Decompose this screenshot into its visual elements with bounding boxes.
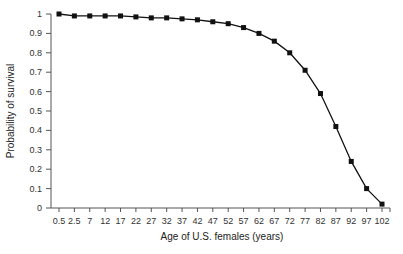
x-tick-label: 97: [362, 216, 372, 226]
y-tick-label: 1: [37, 9, 42, 19]
data-point-marker: [210, 19, 215, 24]
data-point-marker: [164, 15, 169, 20]
x-tick-label: 0.5: [53, 216, 66, 226]
x-axis: 0.52.57121722273237424752576267727782879…: [51, 208, 390, 226]
y-tick-label: 0.1: [29, 184, 42, 194]
x-tick-label: 22: [131, 216, 141, 226]
x-tick-label: 57: [239, 216, 249, 226]
data-point-marker: [226, 21, 231, 26]
x-tick-label: 12: [100, 216, 110, 226]
x-tick-label: 87: [331, 216, 341, 226]
y-tick-label: 0.3: [29, 145, 42, 155]
x-tick-label: 37: [177, 216, 187, 226]
x-tick-label: 27: [146, 216, 156, 226]
data-point-marker: [149, 15, 154, 20]
data-point-marker: [256, 31, 261, 36]
x-tick-label: 77: [300, 216, 310, 226]
x-tick-label: 52: [223, 216, 233, 226]
y-tick-label: 0.8: [29, 48, 42, 58]
x-tick-label: 42: [192, 216, 202, 226]
data-point-marker: [364, 186, 369, 191]
y-tick-label: 0.9: [29, 28, 42, 38]
data-point-marker: [180, 16, 185, 21]
data-point-marker: [287, 50, 292, 55]
data-point-marker: [318, 91, 323, 96]
data-point-marker: [133, 14, 138, 19]
data-point-marker: [241, 25, 246, 30]
data-point-marker: [103, 13, 108, 18]
x-tick-label: 92: [346, 216, 356, 226]
data-point-marker: [118, 13, 123, 18]
data-point-marker: [303, 68, 308, 73]
data-point-marker: [195, 17, 200, 22]
x-tick-label: 32: [162, 216, 172, 226]
x-tick-label: 102: [374, 216, 389, 226]
x-tick-label: 17: [116, 216, 126, 226]
y-tick-label: 0.5: [29, 106, 42, 116]
y-axis: 00.10.20.30.40.50.60.70.80.91: [29, 9, 51, 213]
data-point-marker: [349, 159, 354, 164]
x-tick-label: 7: [87, 216, 92, 226]
x-tick-label: 62: [254, 216, 264, 226]
y-tick-label: 0.7: [29, 67, 42, 77]
data-point-marker: [87, 13, 92, 18]
data-point-marker: [57, 12, 62, 17]
data-point-marker: [380, 202, 385, 207]
x-axis-title: Age of U.S. females (years): [161, 231, 284, 242]
data-point-marker: [72, 13, 77, 18]
survival-line: [59, 14, 382, 204]
survival-chart: 00.10.20.30.40.50.60.70.80.91 0.52.57121…: [0, 0, 403, 254]
x-tick-label: 47: [208, 216, 218, 226]
y-tick-label: 0: [37, 203, 42, 213]
y-tick-label: 0.6: [29, 87, 42, 97]
data-point-marker: [272, 39, 277, 44]
x-tick-label: 82: [315, 216, 325, 226]
data-point-marker: [333, 124, 338, 129]
y-axis-title: Probability of survival: [5, 64, 16, 158]
x-tick-label: 72: [285, 216, 295, 226]
x-tick-label: 67: [269, 216, 279, 226]
x-tick-label: 2.5: [68, 216, 81, 226]
y-tick-label: 0.4: [29, 125, 42, 135]
y-tick-label: 0.2: [29, 164, 42, 174]
plot-area: [57, 12, 385, 207]
